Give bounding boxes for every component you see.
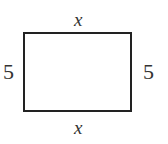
rectangle — [23, 32, 132, 112]
right-side-label: 5 — [143, 61, 154, 83]
top-side-label: x — [74, 10, 82, 29]
left-side-label: 5 — [3, 61, 14, 83]
bottom-side-label: x — [74, 118, 82, 137]
